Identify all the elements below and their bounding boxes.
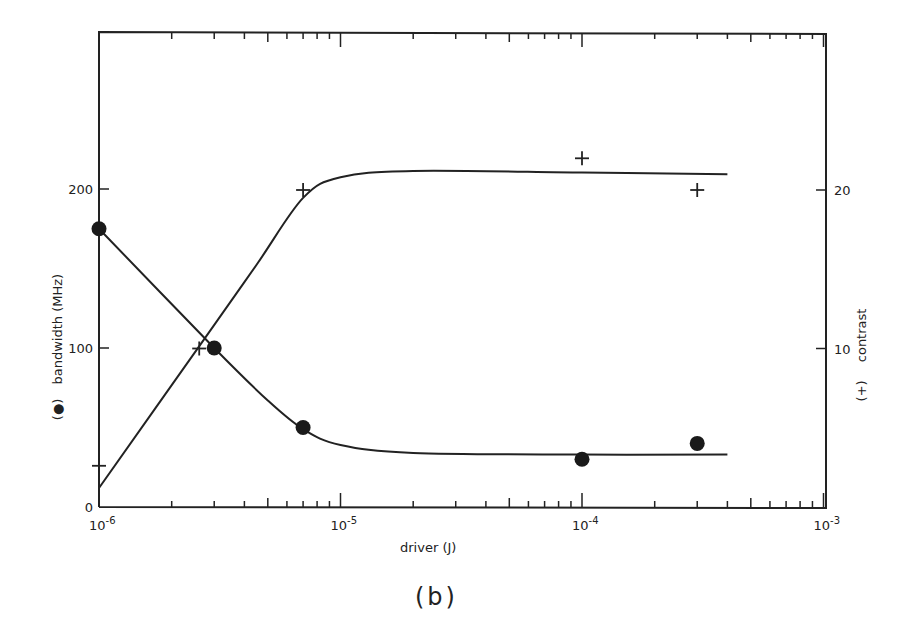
tick-labels: 0100200102010-610-510-410-3 — [68, 182, 850, 533]
x-tick-label: 10-3 — [814, 515, 841, 533]
left-tick-label: 100 — [68, 341, 93, 356]
right-tick-label: 10 — [834, 342, 851, 357]
contrast-points — [92, 151, 704, 472]
svg-text:(+) contrast: (+) contrast — [854, 309, 869, 402]
x-tick-label: 10-6 — [89, 515, 116, 533]
left-tick-label: 200 — [68, 182, 93, 197]
bandwidth-points — [92, 221, 705, 467]
left-tick-label: 0 — [85, 500, 93, 515]
right-tick-label: 20 — [834, 183, 851, 198]
bandwidth-fit-curve — [99, 229, 727, 455]
contrast-point — [690, 183, 704, 197]
plot-frame — [99, 32, 826, 508]
bandwidth-point — [296, 420, 311, 435]
svg-text:(●) bandwidth (MHz): (●) bandwidth (MHz) — [50, 274, 65, 420]
x-tick-label: 10-5 — [331, 515, 358, 533]
left-axis-marker: (●) — [50, 399, 65, 421]
bandwidth-point — [92, 221, 107, 236]
right-axis-marker: (+) — [854, 380, 869, 401]
bandwidth-point — [575, 452, 590, 467]
right-axis-label: (+) contrast — [854, 309, 869, 402]
y-ticks — [99, 189, 826, 349]
contrast-point — [92, 459, 106, 473]
left-axis-label: (●) bandwidth (MHz) — [50, 274, 65, 420]
chart: 0100200102010-610-510-410-3 driver (J) (… — [0, 0, 914, 642]
contrast-point — [296, 183, 310, 197]
x-minor-ticks — [172, 33, 824, 507]
bandwidth-point — [207, 341, 222, 356]
contrast-fit-curve — [99, 171, 727, 488]
contrast-point — [575, 151, 589, 165]
figure-caption: (b) — [415, 583, 458, 611]
x-tick-label: 10-4 — [572, 515, 599, 533]
x-axis-label: driver (J) — [400, 540, 456, 555]
bandwidth-point — [690, 436, 705, 451]
